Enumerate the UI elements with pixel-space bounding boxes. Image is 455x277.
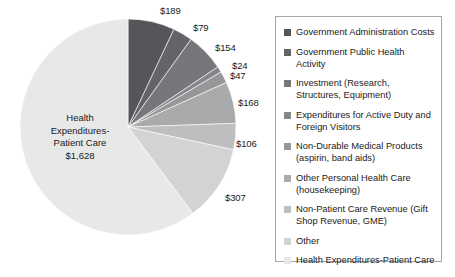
center-label-line-2: Expenditures-	[28, 125, 132, 138]
legend-item[interactable]: Other	[284, 235, 435, 247]
legend-swatch-icon	[284, 143, 291, 150]
legend-item-label: Government Public Health Activity	[296, 46, 435, 70]
legend-item-label: Other Personal Health Care (housekeeping…	[296, 172, 435, 196]
legend-item-label: Non-Patient Care Revenue (Gift Shop Reve…	[296, 203, 435, 227]
legend-swatch-icon	[284, 238, 291, 245]
pie-value-label: $47	[230, 70, 246, 81]
pie-value-label: $307	[225, 192, 246, 203]
legend-item-label: Expenditures for Active Duty and Foreign…	[296, 109, 435, 133]
legend-item[interactable]: Expenditures for Active Duty and Foreign…	[284, 109, 435, 133]
legend-item-label: Government Administration Costs	[296, 26, 434, 38]
legend-swatch-icon	[284, 29, 291, 36]
pie-value-label: $168	[238, 97, 259, 108]
pie-chart: Health Expenditures- Patient Care $1,628…	[0, 0, 275, 277]
legend-swatch-icon	[284, 175, 291, 182]
pie-value-label: $154	[215, 42, 236, 53]
legend-item[interactable]: Non-Durable Medical Products (aspirin, b…	[284, 140, 435, 164]
legend-item-label: Other	[296, 235, 319, 247]
legend-item[interactable]: Non-Patient Care Revenue (Gift Shop Reve…	[284, 203, 435, 227]
legend-item-label: Health Expenditures-Patient Care	[296, 254, 435, 266]
pie-value-label: $189	[160, 5, 181, 16]
legend-item-label: Investment (Research, Structures, Equipm…	[296, 77, 435, 101]
center-label-line-3: Patient Care	[28, 137, 132, 150]
legend-swatch-icon	[284, 206, 291, 213]
legend-item[interactable]: Government Administration Costs	[284, 26, 435, 38]
legend-item[interactable]: Other Personal Health Care (housekeeping…	[284, 172, 435, 196]
legend-item[interactable]: Health Expenditures-Patient Care	[284, 254, 435, 266]
chart-legend: Government Administration CostsGovernmen…	[275, 16, 442, 262]
center-label-line-4: $1,628	[28, 150, 132, 163]
pie-center-label: Health Expenditures- Patient Care $1,628	[28, 112, 132, 162]
pie-value-label: $79	[193, 22, 209, 33]
legend-swatch-icon	[284, 257, 291, 264]
legend-item-label: Non-Durable Medical Products (aspirin, b…	[296, 140, 435, 164]
legend-item[interactable]: Government Public Health Activity	[284, 46, 435, 70]
legend-swatch-icon	[284, 49, 291, 56]
pie-value-label: $106	[236, 138, 257, 149]
legend-swatch-icon	[284, 112, 291, 119]
center-label-line-1: Health	[28, 112, 132, 125]
legend-item[interactable]: Investment (Research, Structures, Equipm…	[284, 77, 435, 101]
legend-swatch-icon	[284, 80, 291, 87]
